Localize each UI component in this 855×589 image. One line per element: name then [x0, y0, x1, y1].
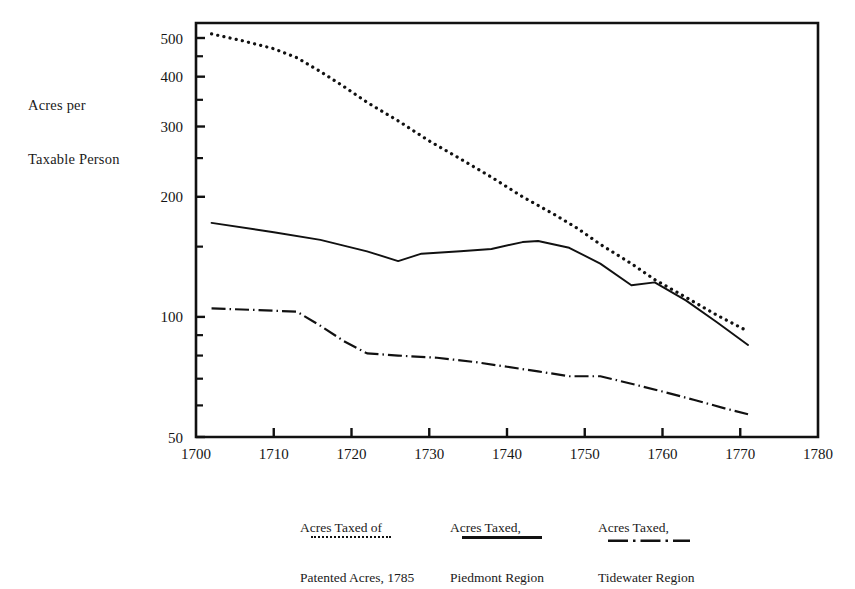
dash-dot-line-key [608, 538, 690, 542]
svg-text:1750: 1750 [570, 446, 600, 462]
svg-text:1740: 1740 [492, 446, 522, 462]
legend-label-tidewater-line1: Acres Taxed, [598, 520, 695, 537]
svg-text:1710: 1710 [259, 446, 289, 462]
series-line [212, 34, 748, 331]
y-tick-labels: 50100200300400500 [161, 31, 184, 446]
axis-tick-marks [196, 38, 740, 437]
legend-label-patented-line1: Acres Taxed of [300, 520, 414, 537]
plot-frame [196, 23, 818, 437]
x-tick-labels: 170017101720173017401750176017701780 [181, 446, 833, 462]
legend-label-patented-line2: Patented Acres, 1785 [300, 570, 414, 587]
series-line [212, 223, 748, 345]
svg-text:200: 200 [161, 189, 184, 205]
svg-text:400: 400 [161, 69, 184, 85]
series-line [212, 308, 748, 414]
svg-text:1780: 1780 [803, 446, 833, 462]
svg-text:1730: 1730 [414, 446, 444, 462]
dotted-line-key [311, 536, 391, 552]
svg-text:300: 300 [161, 119, 184, 135]
svg-text:100: 100 [161, 309, 184, 325]
svg-text:50: 50 [168, 430, 183, 446]
legend-label-tidewater-line2: Tidewater Region [598, 570, 695, 587]
svg-text:1700: 1700 [181, 446, 211, 462]
svg-text:1770: 1770 [725, 446, 755, 462]
solid-line-key [462, 536, 542, 553]
svg-text:500: 500 [161, 31, 184, 47]
svg-text:1760: 1760 [648, 446, 678, 462]
legend-label-piedmont-line1: Acres Taxed, [450, 520, 544, 537]
data-series-group [212, 34, 748, 414]
svg-text:1720: 1720 [337, 446, 367, 462]
legend-label-piedmont-line2: Piedmont Region [450, 570, 544, 587]
